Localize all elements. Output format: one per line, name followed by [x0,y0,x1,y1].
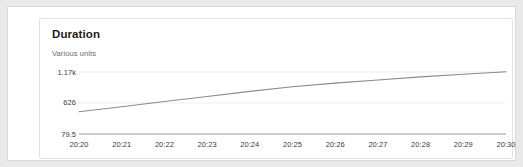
x-axis-tick-label: 20:30 [489,140,523,149]
x-axis-tick-label: 20:25 [276,140,310,149]
x-axis-tick-label: 20:20 [62,140,96,149]
x-axis-tick-label: 20:26 [318,140,352,149]
x-axis-tick-label: 20:29 [446,140,480,149]
outer-panel: Duration Various units 79.5 626 1.17k 20… [7,6,516,161]
x-axis-tick-label: 20:28 [404,140,438,149]
x-axis-tick-label: 20:23 [190,140,224,149]
x-axis-tick-label: 20:21 [105,140,139,149]
page-background: Duration Various units 79.5 626 1.17k 20… [0,0,523,167]
series-line-duration [79,72,506,112]
y-axis-label-1: 626 [42,98,76,107]
duration-chart-card: Duration Various units 79.5 626 1.17k 20… [39,18,513,159]
y-axis-label-2: 1.17k [42,68,76,77]
chart-plot-area: 79.5 626 1.17k 20:2020:2120:2220:2320:24… [40,19,514,160]
line-chart-svg [40,19,514,160]
x-axis-tick-label: 20:22 [147,140,181,149]
y-axis-label-0: 79.5 [42,130,76,139]
x-axis-tick-label: 20:24 [233,140,267,149]
x-axis-tick-label: 20:27 [361,140,395,149]
gridlines [79,72,506,134]
